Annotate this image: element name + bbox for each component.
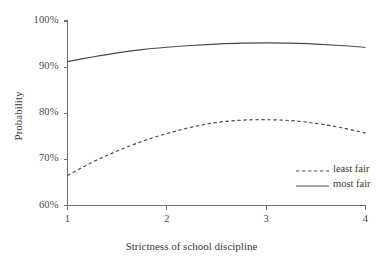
y-tick-label: 90% bbox=[0, 60, 59, 71]
legend-swatch-solid-icon bbox=[296, 184, 329, 188]
legend-item-most-fair: most fair bbox=[296, 178, 382, 193]
y-tick-label: 80% bbox=[0, 106, 59, 117]
x-tick-label: 2 bbox=[147, 213, 187, 224]
chart-figure: 60%70%80%90%100% 1234 Probability Strict… bbox=[0, 0, 383, 266]
series-line-most-fair bbox=[68, 43, 366, 62]
x-tick-label: 3 bbox=[246, 213, 286, 224]
y-axis-ticks bbox=[64, 21, 68, 206]
chart-plot-area bbox=[0, 0, 383, 266]
legend-swatch-dashed-icon bbox=[296, 169, 329, 173]
chart-legend: least fair most fair bbox=[296, 163, 382, 193]
x-tick-label: 1 bbox=[48, 213, 88, 224]
x-axis-title: Strictness of school discipline bbox=[0, 240, 383, 252]
legend-label-most-fair: most fair bbox=[333, 178, 371, 189]
y-axis-title: Probability bbox=[12, 66, 24, 166]
y-tick-label: 70% bbox=[0, 152, 59, 163]
x-tick-label: 4 bbox=[346, 213, 383, 224]
legend-label-least-fair: least fair bbox=[333, 163, 369, 174]
x-axis-ticks bbox=[68, 206, 366, 210]
legend-item-least-fair: least fair bbox=[296, 163, 382, 178]
y-tick-label: 60% bbox=[0, 199, 59, 210]
y-tick-label: 100% bbox=[0, 14, 59, 25]
